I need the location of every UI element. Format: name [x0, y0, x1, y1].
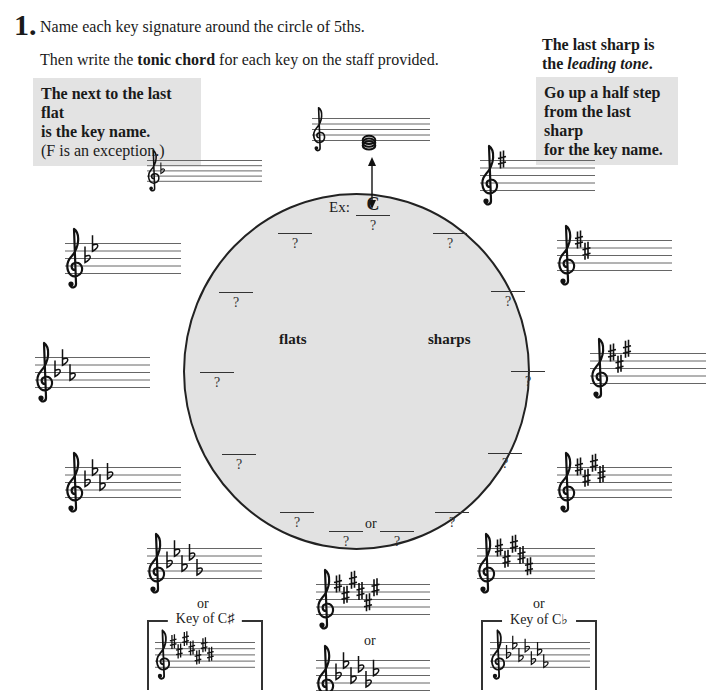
answer-blank-dflat[interactable]: ? [280, 512, 314, 531]
flat-icon [85, 471, 90, 487]
answer-blank-d[interactable]: ? [491, 291, 525, 310]
sharp-icon [616, 355, 624, 373]
answer-blank-fsharp[interactable]: ? [329, 531, 363, 550]
staff-three-flats[interactable] [35, 357, 150, 388]
staff-four-sharps[interactable] [557, 467, 672, 498]
key-of-cflat-title: Key of C♭ [502, 611, 576, 628]
flat-tip-box: The next to the last flat is the key nam… [33, 78, 201, 166]
flat-icon [366, 671, 371, 687]
sharp-icon [525, 557, 533, 575]
sharp-icon [590, 454, 598, 472]
answer-blank-f[interactable]: ? [278, 233, 312, 252]
sharp-icon [503, 550, 511, 568]
sharp-icon [583, 469, 591, 487]
flat-icon [359, 656, 364, 672]
or-label-bottom: or [364, 633, 376, 649]
tonic-chord-notes [363, 136, 376, 150]
sharp-icon [364, 593, 372, 611]
circle-of-fifths [183, 193, 530, 550]
staff-five-sharps[interactable] [477, 548, 595, 579]
flat-icon [85, 247, 90, 263]
sharp-tip-heading: The last sharp is the leading tone. [542, 35, 654, 73]
staff-six-sharps[interactable] [316, 584, 430, 615]
flat-icon [108, 463, 113, 479]
answer-blank-gflat[interactable]: ? [380, 531, 414, 550]
staff-one-flat[interactable] [147, 160, 262, 182]
key-of-csharp-title: Key of C♯ [168, 611, 242, 627]
or-label-right: or [533, 596, 545, 612]
or-label-circle: or [365, 516, 377, 532]
answer-blank-aflat[interactable]: ? [222, 454, 256, 473]
flats-label: flats [279, 331, 307, 348]
staff-c-major[interactable] [312, 118, 430, 168]
answer-blank-g[interactable]: ? [433, 233, 467, 252]
key-of-csharp-box: Key of C♯ [147, 620, 263, 690]
staff-six-flats[interactable] [316, 660, 430, 691]
staff-one-sharp[interactable] [480, 160, 595, 191]
key-of-cflat-box: Key of C♭ [481, 620, 597, 690]
sharp-icon [583, 242, 591, 260]
tonic-chord-term: tonic chord [137, 51, 215, 68]
exercise-number: 1. [14, 8, 37, 42]
flat-icon [55, 361, 60, 377]
example-answer: C [356, 194, 390, 216]
sharp-icon [510, 535, 518, 553]
sharp-icon [608, 344, 616, 362]
answer-blank-b[interactable]: ? [435, 512, 469, 531]
instruction-line-1: Name each key signature around the circl… [40, 18, 365, 36]
answer-blank-a[interactable]: ? [511, 371, 545, 390]
flat-icon [190, 544, 195, 560]
flat-icon [197, 559, 202, 575]
example-placeholder: ? [356, 218, 390, 234]
staff-two-sharps[interactable] [557, 240, 672, 271]
sharp-icon [372, 578, 380, 596]
staff-two-flats[interactable] [65, 243, 181, 274]
answer-blank-eflat[interactable]: ? [200, 372, 234, 391]
sharp-icon [575, 458, 583, 476]
staff-five-flats[interactable] [147, 548, 262, 579]
answer-blank-e[interactable]: ? [488, 453, 522, 472]
flat-icon [336, 664, 341, 680]
sharp-icon [498, 151, 506, 169]
flat-icon [161, 163, 165, 174]
flat-icon [167, 552, 172, 568]
sharp-icon [342, 586, 350, 604]
staff-four-flats[interactable] [65, 467, 181, 498]
sharp-icon [623, 340, 631, 358]
answer-blank-bflat[interactable]: ? [219, 292, 253, 311]
sharp-icon [349, 571, 357, 589]
sharp-icon [334, 575, 342, 593]
sharp-icon [575, 231, 583, 249]
sharp-tip-box: Go up a half step from the last sharp fo… [536, 77, 678, 165]
or-label-left: or [197, 596, 209, 612]
sharps-label: sharps [428, 331, 471, 348]
sharp-icon [495, 539, 503, 557]
staff-three-sharps[interactable] [590, 353, 706, 384]
example-prefix: Ex: [329, 199, 350, 216]
instruction-line-2: Then write the tonic chord for each key … [40, 51, 439, 69]
